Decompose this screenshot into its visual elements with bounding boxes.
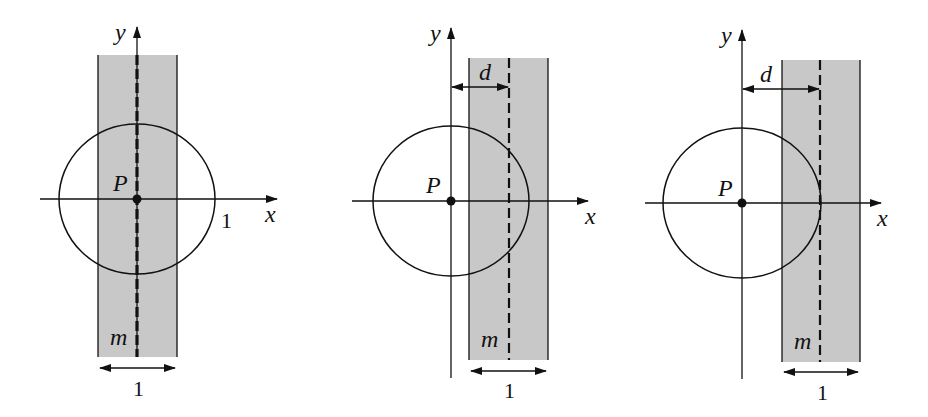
point-p [738,199,747,208]
y-axis-label: y [113,19,126,45]
x-axis-label: x [876,205,888,231]
strip-width-label: 1 [817,380,828,405]
panel-3: y x P m d 1 [645,22,888,405]
line-m-label: m [481,326,498,352]
line-m-label: m [110,324,127,350]
panel-2: y x P m d 1 [352,20,596,403]
point-p-label: P [717,175,733,201]
point-p-label: P [425,172,441,198]
strip-width-label: 1 [504,378,515,403]
distance-d-label: d [760,61,773,87]
x-axis-label: x [264,201,276,227]
point-p-label: P [112,170,128,196]
point-p [133,195,142,204]
distance-d-label: d [479,59,492,85]
line-m-label: m [794,328,811,354]
y-axis-label: y [719,22,732,48]
y-axis-label: y [428,20,441,46]
point-p [447,197,456,206]
panel-1: y x P m 1 1 [40,19,277,401]
radius-label: 1 [221,208,232,233]
three-panel-figure: y x P m 1 1 y x P m d 1 y x [0,0,928,417]
strip-width-label: 1 [133,376,144,401]
x-axis-label: x [584,203,596,229]
